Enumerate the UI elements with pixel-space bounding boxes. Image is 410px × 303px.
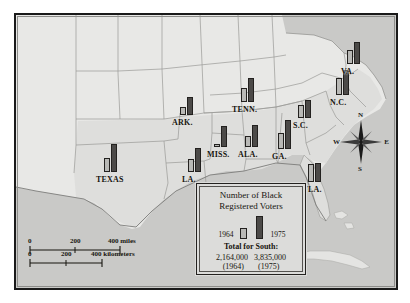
state-bargroup-texas <box>104 144 117 172</box>
state-bargroup-la <box>188 148 201 172</box>
legend-bar-key: 1964 1975 <box>240 213 263 239</box>
legend-year-1964: 1964 <box>219 230 234 239</box>
bar-1975 <box>111 144 117 172</box>
state-bargroup-miss <box>214 126 227 147</box>
state-label-tenn: TENN. <box>232 105 257 114</box>
compass-rose: N S W E <box>333 112 389 172</box>
state-bargroup-va <box>347 42 360 64</box>
state-bargroup-tenn <box>241 78 254 102</box>
legend-title: Number of Black Registered Voters <box>219 190 282 211</box>
bar-1964 <box>245 136 251 147</box>
state-label-ala: ALA. <box>238 150 258 159</box>
legend-total-year-1964: (1964) <box>223 262 244 271</box>
state-bargroup-ga <box>278 120 291 149</box>
map-figure: TEXASARK.LA.MISS.ALA.TENN.GA.FLA.S.C.N.C… <box>0 0 410 303</box>
bar-1964 <box>278 133 284 149</box>
bar-1975 <box>221 126 227 147</box>
legend-total-label: Total for South: <box>224 242 278 251</box>
bar-1975 <box>195 148 201 172</box>
bar-1975 <box>187 97 193 115</box>
legend-swatch-1964 <box>240 228 247 239</box>
bar-1975 <box>315 163 321 182</box>
bar-1964 <box>308 164 314 182</box>
state-bargroup-sc <box>298 100 311 118</box>
state-label-va: VA. <box>341 67 354 76</box>
bar-1964 <box>298 105 304 118</box>
bar-1964 <box>347 50 353 64</box>
compass-rose-icon <box>333 112 389 172</box>
state-bargroup-ark <box>180 97 193 115</box>
compass-label-south: S <box>358 165 362 173</box>
map-legend: Number of Black Registered Voters 1964 1… <box>196 183 306 275</box>
bar-1975 <box>305 100 311 118</box>
legend-swatch-1975 <box>256 216 263 239</box>
bar-1975 <box>285 120 291 149</box>
scale-miles-tick-200: 200 <box>70 237 81 245</box>
state-label-sc: S.C. <box>293 121 308 130</box>
state-label-ark: ARK. <box>172 118 193 127</box>
legend-total-year-1975: (1975) <box>258 262 279 271</box>
legend-title-line2: Registered Voters <box>219 201 282 211</box>
bar-1964 <box>214 144 220 147</box>
legend-total-1964: 2,164,000 <box>216 253 248 262</box>
legend-total-1975: 3,835,000 <box>254 253 286 262</box>
scale-km-tick-200: 200 <box>61 250 72 258</box>
legend-title-line1: Number of Black <box>220 190 282 200</box>
bar-1964 <box>241 88 247 102</box>
bar-1964 <box>180 107 186 115</box>
scale-miles-tick-0: 0 <box>28 237 32 245</box>
bar-1975 <box>248 78 254 102</box>
bar-1975 <box>252 125 258 147</box>
bar-1964 <box>188 159 194 172</box>
compass-label-west: W <box>333 138 340 146</box>
legend-total-values: 2,164,000 3,835,000 <box>216 253 286 262</box>
state-label-nc: N.C. <box>330 98 346 107</box>
scale-km-tick-0: 0 <box>28 250 32 258</box>
state-label-texas: TEXAS <box>96 175 124 184</box>
state-label-ga: GA. <box>272 152 287 161</box>
bar-1964 <box>336 78 342 95</box>
bar-1975 <box>354 42 360 64</box>
bar-1964 <box>104 158 110 172</box>
state-label-miss: MISS. <box>207 150 230 159</box>
compass-label-north: N <box>358 111 363 119</box>
legend-year-1975: 1975 <box>271 230 286 239</box>
scale-km-tick-400: 400 kilometers <box>91 250 135 258</box>
scale-bars: 0 200 400 miles 0 200 400 kilometers <box>28 238 148 272</box>
state-label-la: LA. <box>182 175 196 184</box>
state-bargroup-fla <box>308 163 321 182</box>
legend-total-years: (1964) (1975) <box>223 262 280 271</box>
compass-label-east: E <box>384 138 389 146</box>
scale-miles-tick-400: 400 miles <box>108 237 136 245</box>
state-bargroup-ala <box>245 125 258 147</box>
